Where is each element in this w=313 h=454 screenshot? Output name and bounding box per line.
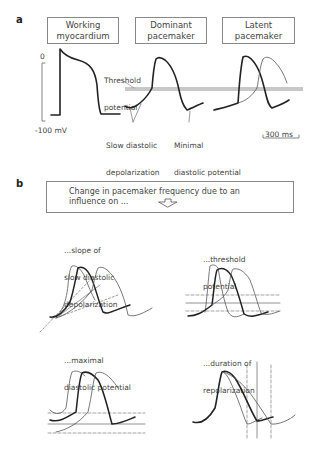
threshold-pointer <box>122 80 134 88</box>
subplot-maximal-diastolic-graphic <box>48 371 145 433</box>
y-axis-bracket <box>42 63 45 121</box>
working-myocardium-trace <box>51 49 120 115</box>
subplot-repolarization-graphic <box>193 362 295 438</box>
subplot-threshold-graphic <box>186 265 280 317</box>
latent-pacemaker-dominant-trace <box>214 56 289 110</box>
diagram-graphics <box>0 0 313 454</box>
down-arrow-icon <box>159 199 177 207</box>
dominant-pacemaker-trace <box>125 58 203 110</box>
subplot-slope-graphic <box>40 266 152 332</box>
minimal-diastolic-pointer <box>189 111 190 122</box>
time-scale-bar <box>263 135 299 138</box>
